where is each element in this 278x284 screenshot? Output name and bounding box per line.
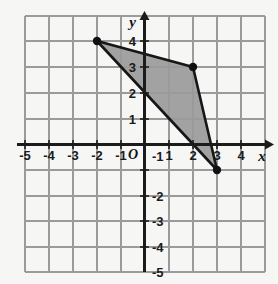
y-tick-label-4: 4 <box>129 34 137 49</box>
coordinate-plane-figure: -5 -4 -3 -2 -1 1 2 3 4 4 3 2 1 -1 -2 -3 … <box>0 0 278 284</box>
x-axis-arrowhead <box>265 140 274 150</box>
y-tick-label--4: -4 <box>152 240 164 255</box>
vertex-point-b <box>189 63 197 71</box>
x-axis-label: x <box>257 148 266 164</box>
y-axis-label: y <box>127 14 136 30</box>
y-tick-label-1: 1 <box>129 112 136 127</box>
x-tick-label-2: 2 <box>189 148 196 163</box>
origin-label: O <box>128 147 138 162</box>
coordinate-plot-svg: -5 -4 -3 -2 -1 1 2 3 4 4 3 2 1 -1 -2 -3 … <box>0 0 278 284</box>
vertex-point-c <box>213 166 221 174</box>
y-tick-label--2: -2 <box>152 189 164 204</box>
x-tick-label-1: 1 <box>165 148 172 163</box>
x-tick-label--2: -2 <box>91 148 103 163</box>
x-tick-label-3: 3 <box>213 148 220 163</box>
x-tick-label--5: -5 <box>19 148 31 163</box>
x-tick-label--3: -3 <box>67 148 79 163</box>
x-tick-label--4: -4 <box>43 148 55 163</box>
y-tick-label-2: 2 <box>129 86 136 101</box>
y-tick-label--1: -1 <box>152 149 164 164</box>
x-tick-label-4: 4 <box>237 148 245 163</box>
vertex-point-a <box>93 37 101 45</box>
y-tick-label--3: -3 <box>152 214 164 229</box>
y-tick-label-3: 3 <box>129 60 136 75</box>
x-tick-label--1: -1 <box>115 148 127 163</box>
y-tick-label--5: -5 <box>152 265 164 280</box>
y-axis <box>140 11 150 272</box>
